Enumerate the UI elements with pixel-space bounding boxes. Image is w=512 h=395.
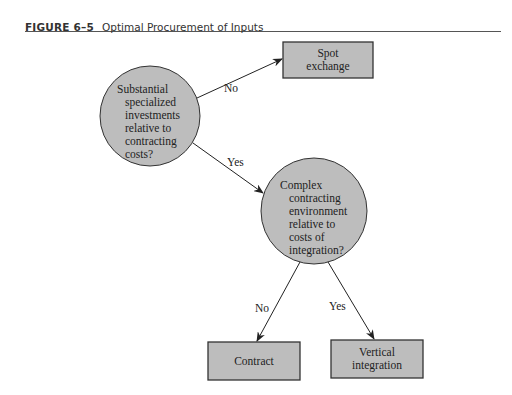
- edge-label-d2-no: No: [255, 302, 269, 314]
- arrow-d1-no: [197, 59, 282, 98]
- contract-label: Contract: [208, 342, 300, 380]
- decision2-text: Complex contracting environment relative…: [280, 179, 347, 257]
- spot-exchange-label: Spot exchange: [283, 42, 373, 78]
- arrow-d1-yes: [193, 143, 263, 193]
- vertical-integration-label: Vertical integration: [331, 340, 423, 378]
- edge-label-d1-yes: Yes: [227, 156, 244, 168]
- edge-label-d1-no: No: [224, 82, 238, 94]
- diagram-canvas: [0, 0, 512, 395]
- edge-label-d2-yes: Yes: [329, 300, 346, 312]
- decision1-text: Substantial specialized investments rela…: [117, 83, 180, 161]
